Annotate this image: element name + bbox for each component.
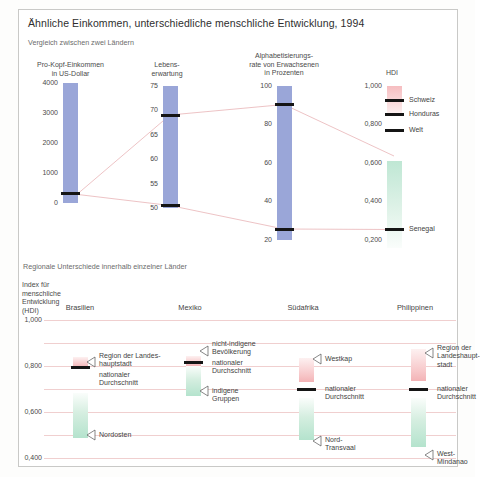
tick-hdi2-0600: 0,600 [8, 408, 42, 415]
gridline-0700 [44, 389, 456, 390]
tick-life-70: 70 [132, 106, 158, 113]
band-philippinen-westmindanao [411, 398, 426, 447]
legend-label-senegal: Senegal [409, 225, 435, 232]
band-philippinen-capital [411, 349, 426, 381]
tick-literacy-80: 80 [246, 120, 272, 127]
marker-income-combined [61, 192, 80, 195]
annotation-suedafrika-nordtransvaal: Nord- Transvaal [325, 436, 355, 453]
annotation-mexiko-nonindigenous: nicht-indigene Bevölkerung [212, 340, 256, 357]
gridline-0400 [44, 458, 456, 459]
axis-caption-life-expectancy: Lebens- erwartung [130, 61, 204, 78]
annotation-brasilien-national: nationaler Durchschnitt [99, 371, 138, 388]
marker-philippinen-national [409, 388, 428, 391]
country-header-philippinen: Philippinen [370, 303, 460, 312]
marker-life-honduras [161, 114, 180, 117]
annotation-philippinen-westmindanao: West- Mindanao [437, 450, 468, 467]
tick-life-50: 50 [132, 204, 158, 211]
section2-title: Regionale Unterschiede innerhalb einzeln… [23, 262, 187, 271]
legend-label-welt: Welt [409, 126, 423, 133]
axis-caption-literacy: Alphabetisierungs- rate von Erwachsenen … [229, 52, 339, 78]
marker-hdi-honduras [385, 113, 404, 116]
bar-income [63, 83, 78, 203]
tick-hdi-0400: 0,400 [348, 197, 382, 204]
band-hdi-developing [387, 161, 402, 248]
annotation-philippinen-national: nationaler Durchschnitt [437, 385, 476, 402]
marker-life-senegal [161, 204, 180, 207]
tick-hdi2-1000: 1,000 [8, 316, 42, 323]
marker-hdi-welt [385, 129, 404, 132]
tick-literacy-40: 40 [246, 197, 272, 204]
marker-literacy-senegal [275, 228, 294, 231]
tick-income-3000: 3000 [22, 109, 58, 116]
marker-hdi-senegal [385, 228, 404, 231]
annotation-suedafrika-national: nationaler Durchschnitt [325, 385, 364, 402]
tick-literacy-60: 60 [246, 159, 272, 166]
tick-hdi2-0400: 0,400 [8, 454, 42, 461]
marker-brasilien-national [71, 366, 90, 369]
tick-life-65: 65 [132, 131, 158, 138]
band-suedafrika-nordtransvaal [299, 398, 314, 440]
marker-mexiko-national [184, 361, 203, 364]
tick-life-60: 60 [132, 155, 158, 162]
annotation-mexiko-indigenous: indigene Gruppen [212, 387, 239, 404]
gridline-1000 [44, 320, 456, 321]
tick-hdi2-0800: 0,800 [8, 362, 42, 369]
band-brasilien-nordosten [73, 393, 88, 438]
page-subtitle: Vergleich zwischen zwei Ländern [28, 38, 134, 47]
tick-income-2000: 2000 [22, 139, 58, 146]
marker-suedafrika-national [297, 388, 316, 391]
axis-caption-income: Pro-Kopf-Einkommen in US-Dollar [18, 61, 123, 78]
country-header-brasilien: Brasilien [35, 303, 125, 312]
tick-hdi-0200: 0,200 [348, 236, 382, 243]
country-header-mexiko: Mexiko [145, 303, 235, 312]
tick-hdi-0600: 0,600 [348, 159, 382, 166]
tick-literacy-100: 100 [246, 82, 272, 89]
tick-hdi-1000: 1,000 [348, 82, 382, 89]
tick-life-75: 75 [132, 82, 158, 89]
tick-literacy-20: 20 [246, 236, 272, 243]
marker-literacy-honduras [275, 103, 294, 106]
country-header-suedafrika: Südafrika [258, 303, 348, 312]
legend-label-schweiz: Schweiz [409, 96, 435, 103]
annotation-mexiko-national: nationaler Durchschnitt [212, 359, 251, 376]
gridline-0600 [44, 412, 456, 413]
axis-caption-hdi: HDI [372, 69, 412, 78]
tick-hdi-0800: 0,800 [348, 120, 382, 127]
band-mexiko-indigenous [186, 366, 201, 396]
page-title: Ähnliche Einkommen, unterschiedliche men… [28, 17, 364, 29]
tick-life-55: 55 [132, 180, 158, 187]
tick-income-0: 0 [22, 199, 58, 206]
bar-literacy [277, 86, 292, 240]
annotation-suedafrika-westkap: Westkap [325, 355, 352, 363]
tick-income-1000: 1000 [22, 169, 58, 176]
marker-hdi-schweiz [385, 99, 404, 102]
band-suedafrika-westkap [299, 358, 314, 382]
tick-income-4000: 4000 [22, 79, 58, 86]
annotation-brasilien-nordosten: Nordosten [99, 431, 131, 439]
annotation-philippinen-capital: Region der Landeshaupt- stadt [437, 344, 480, 369]
bar-life-expectancy [163, 86, 178, 208]
legend-label-honduras: Honduras [409, 110, 439, 117]
annotation-brasilien-capital: Region der Landes- hauptstadt [99, 352, 161, 369]
